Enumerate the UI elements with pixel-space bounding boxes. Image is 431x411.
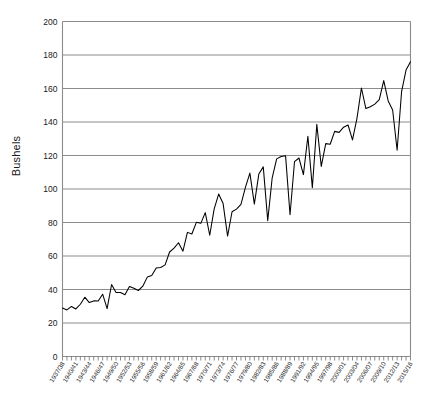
y-tick-label: 40	[48, 285, 58, 295]
y-tick-label: 140	[43, 117, 57, 127]
y-tick-label: 60	[48, 251, 58, 261]
plot-area: 020406080100120140160180200 1937/381940/…	[0, 0, 431, 411]
y-tick-labels-group: 020406080100120140160180200	[43, 17, 57, 362]
x-tick-labels-group: 1937/381940/411943/441946/471949/501952/…	[48, 360, 414, 384]
y-tick-label: 20	[48, 318, 58, 328]
y-tick-label: 0	[53, 352, 58, 362]
y-tick-label: 100	[43, 184, 57, 194]
y-tick-label: 120	[43, 151, 57, 161]
gridlines-group	[63, 22, 411, 357]
x-minor-ticks-group	[63, 357, 411, 361]
yield-line-series	[63, 62, 411, 310]
y-tick-label: 180	[43, 50, 57, 60]
y-tick-label: 200	[43, 17, 57, 27]
y-tick-label: 160	[43, 84, 57, 94]
corn-yield-chart: Bushels 020406080100120140160180200 1937…	[0, 0, 431, 411]
y-tick-label: 80	[48, 218, 58, 228]
